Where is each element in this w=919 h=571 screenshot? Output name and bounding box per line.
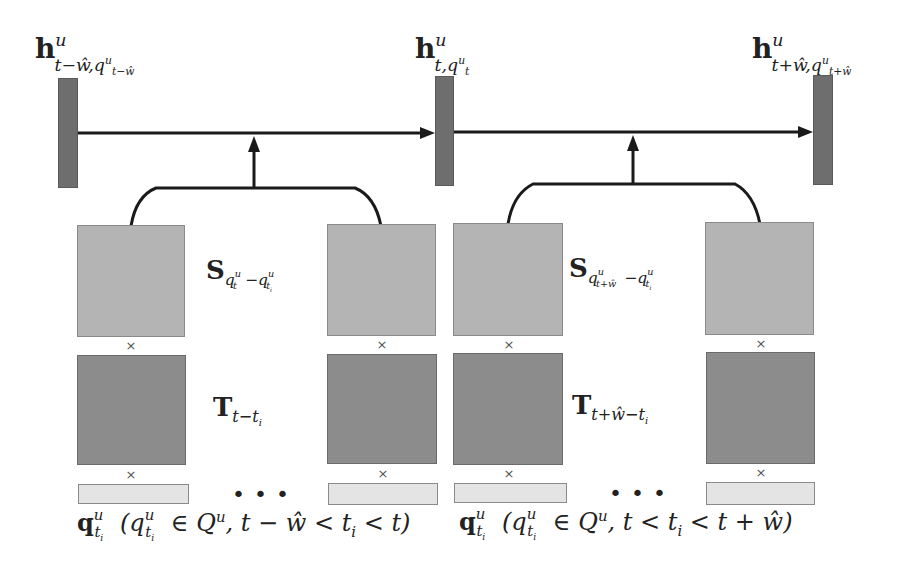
ellipsis: ••• [609, 484, 675, 504]
multiply-icon: × [751, 337, 771, 351]
multiply-icon: × [121, 339, 141, 353]
temporal-matrix-box [77, 355, 186, 465]
hidden-state-prev-bar [58, 78, 78, 188]
spatial-matrix-box [327, 224, 436, 336]
hidden-state-prev-label: hut−ŵ,qut−ŵ [35, 32, 146, 72]
multiply-icon: × [373, 467, 393, 481]
hidden-state-next-bar [813, 75, 833, 185]
temporal-label: Tt−ti [213, 392, 262, 428]
spatial-matrix-box [77, 225, 185, 337]
input-vector-bar [328, 483, 438, 505]
spatial-matrix-box [705, 222, 814, 335]
ellipsis: ••• [232, 485, 298, 505]
input-vector-bar [78, 484, 189, 504]
hidden-state-curr-bar [435, 76, 454, 186]
aggregation-bracket-right [508, 135, 760, 224]
aggregation-bracket-left [131, 136, 381, 226]
multiply-icon: × [499, 467, 519, 481]
multiply-icon: × [121, 468, 141, 482]
input-label: quti (quti ∈ Qu, t − ŵ < ti < t) [77, 508, 410, 543]
input-vector-bar [454, 483, 567, 503]
temporal-matrix-box [453, 353, 563, 465]
temporal-matrix-box [327, 354, 437, 464]
multiply-icon: × [751, 466, 771, 480]
spatial-label: Squt+ŵ−quti [569, 253, 659, 291]
multiply-icon: × [499, 338, 519, 352]
hidden-state-next-label: hut+ŵ,qut+ŵ [752, 32, 863, 72]
temporal-matrix-box [706, 352, 815, 464]
input-label: quti (quti ∈ Qu, t < ti < t + ŵ) [459, 507, 793, 542]
multiply-icon: × [372, 338, 392, 352]
spatial-label: Squt−quti [206, 255, 280, 293]
spatial-matrix-box [453, 223, 563, 336]
hidden-state-curr-label: hut,qut [415, 32, 481, 72]
temporal-label: Tt+ŵ−ti [572, 390, 648, 426]
arrow-h-prev-to-curr [77, 127, 435, 139]
input-vector-bar [706, 482, 815, 505]
